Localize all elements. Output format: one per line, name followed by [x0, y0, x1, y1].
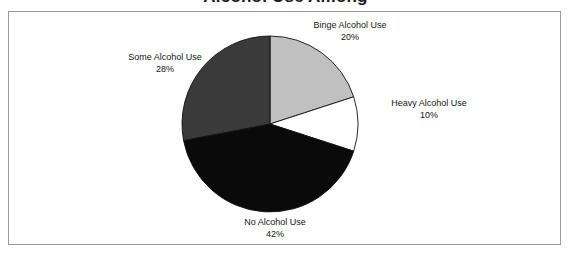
pie-chart-figure: Alcohol Use Among Binge Alcohol Use 20% … — [0, 0, 571, 258]
pie-label-no-alcohol-use: No Alcohol Use 42% — [214, 216, 336, 240]
pie-label-some-alcohol-use: Some Alcohol Use 28% — [101, 51, 229, 75]
pie-label-heavy-percent: 10% — [366, 109, 492, 121]
pie-label-heavy-alcohol-use: Heavy Alcohol Use 10% — [366, 97, 492, 121]
pie-label-no-name: No Alcohol Use — [214, 216, 336, 228]
pie-label-some-name: Some Alcohol Use — [101, 51, 229, 63]
pie-label-binge-alcohol-use: Binge Alcohol Use 20% — [288, 19, 412, 43]
pie-label-binge-name: Binge Alcohol Use — [288, 19, 412, 31]
pie-label-heavy-name: Heavy Alcohol Use — [366, 97, 492, 109]
pie-label-some-percent: 28% — [101, 63, 229, 75]
pie-label-binge-percent: 20% — [288, 31, 412, 43]
pie-label-no-percent: 42% — [214, 228, 336, 240]
